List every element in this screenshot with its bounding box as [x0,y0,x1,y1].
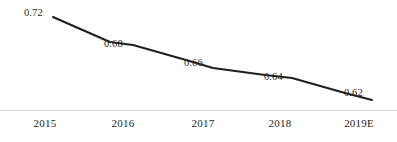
chart-plot-svg [0,0,397,110]
data-label-2019e: 0.62 [344,88,363,99]
x-tick-label-2018: 2018 [269,116,292,130]
data-series-line [53,17,372,100]
x-axis-line [0,110,397,111]
line-chart: 0.72 0.68 0.66 0.64 0.62 2015 2016 2017 … [0,0,397,142]
x-tick-label-2015: 2015 [34,116,57,130]
data-label-2016: 0.68 [104,39,123,50]
x-tick-label-2017: 2017 [192,116,215,130]
x-tick-label-2016: 2016 [112,116,135,130]
x-axis-tick-labels: 2015 2016 2017 2018 2019E [0,116,397,136]
x-tick-label-2019e: 2019E [344,116,374,130]
data-label-2018: 0.64 [264,72,283,83]
data-label-2017: 0.66 [184,58,203,69]
data-label-2015: 0.72 [24,8,43,19]
plot-area [0,0,397,110]
